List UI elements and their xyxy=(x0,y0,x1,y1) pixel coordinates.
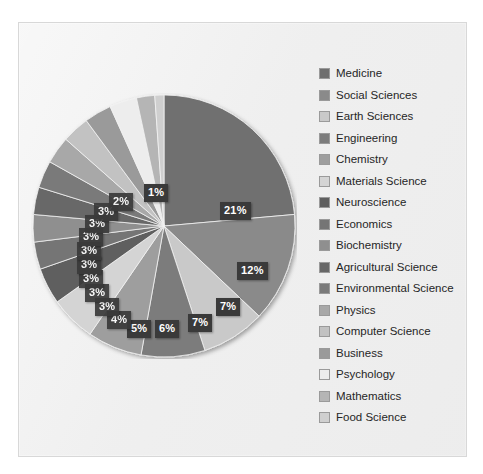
legend-swatch-icon xyxy=(319,391,330,402)
legend-label: Chemistry xyxy=(336,154,388,166)
plot-area: 21% 12% 7% 7% 6% 5% 4% 3% 3% 3% 3% 3% 3%… xyxy=(19,23,309,456)
legend-item-social-sciences[interactable]: Social Sciences xyxy=(319,85,469,107)
legend-label: Materials Science xyxy=(336,176,427,188)
legend-swatch-icon xyxy=(319,348,330,359)
legend-item-mathematics[interactable]: Mathematics xyxy=(319,386,469,408)
legend-item-engineering[interactable]: Engineering xyxy=(319,128,469,150)
data-label-engineering: 7% xyxy=(188,314,212,332)
legend-item-agricultural-science[interactable]: Agricultural Science xyxy=(319,257,469,279)
data-label-chemistry: 6% xyxy=(155,320,179,338)
legend-swatch-icon xyxy=(319,283,330,294)
legend-swatch-icon xyxy=(319,197,330,208)
legend-item-economics[interactable]: Economics xyxy=(319,214,469,236)
legend-swatch-icon xyxy=(319,305,330,316)
legend-item-chemistry[interactable]: Chemistry xyxy=(319,149,469,171)
legend-item-environmental-science[interactable]: Environmental Science xyxy=(319,278,469,300)
data-label-food-science: 1% xyxy=(144,184,168,202)
legend-item-food-science[interactable]: Food Science xyxy=(319,407,469,429)
legend-swatch-icon xyxy=(319,68,330,79)
data-label-mathematics: 2% xyxy=(109,193,133,211)
legend-label: Biochemistry xyxy=(336,240,402,252)
legend-swatch-icon xyxy=(319,262,330,273)
legend-item-materials-science[interactable]: Materials Science xyxy=(319,171,469,193)
legend-swatch-icon xyxy=(319,326,330,337)
legend-swatch-icon xyxy=(319,240,330,251)
legend-label: Neuroscience xyxy=(336,197,406,209)
legend-label: Social Sciences xyxy=(336,90,417,102)
legend-item-computer-science[interactable]: Computer Science xyxy=(319,321,469,343)
legend-swatch-icon xyxy=(319,154,330,165)
data-label-medicine: 21% xyxy=(220,202,251,220)
data-label-social-sciences: 12% xyxy=(237,262,268,280)
legend-label: Agricultural Science xyxy=(336,262,438,274)
legend-item-physics[interactable]: Physics xyxy=(319,300,469,322)
legend: Medicine Social Sciences Earth Sciences … xyxy=(319,63,469,429)
legend-label: Physics xyxy=(336,305,376,317)
legend-swatch-icon xyxy=(319,176,330,187)
legend-label: Medicine xyxy=(336,68,382,80)
legend-item-psychology[interactable]: Psychology xyxy=(319,364,469,386)
legend-swatch-icon xyxy=(319,219,330,230)
legend-item-business[interactable]: Business xyxy=(319,343,469,365)
legend-swatch-icon xyxy=(319,369,330,380)
legend-item-neuroscience[interactable]: Neuroscience xyxy=(319,192,469,214)
legend-swatch-icon xyxy=(319,133,330,144)
legend-label: Earth Sciences xyxy=(336,111,413,123)
pie-chart-screenshot: 21% 12% 7% 7% 6% 5% 4% 3% 3% 3% 3% 3% 3%… xyxy=(0,0,483,474)
legend-label: Psychology xyxy=(336,369,395,381)
data-label-earth-sciences: 7% xyxy=(216,298,240,316)
legend-item-medicine[interactable]: Medicine xyxy=(319,63,469,85)
legend-label: Engineering xyxy=(336,133,397,145)
legend-swatch-icon xyxy=(319,412,330,423)
legend-label: Computer Science xyxy=(336,326,431,338)
legend-label: Mathematics xyxy=(336,391,401,403)
chart-frame: 21% 12% 7% 7% 6% 5% 4% 3% 3% 3% 3% 3% 3%… xyxy=(18,22,467,457)
legend-item-biochemistry[interactable]: Biochemistry xyxy=(319,235,469,257)
legend-label: Environmental Science xyxy=(336,283,454,295)
legend-item-earth-sciences[interactable]: Earth Sciences xyxy=(319,106,469,128)
legend-swatch-icon xyxy=(319,111,330,122)
legend-label: Business xyxy=(336,348,383,360)
legend-label: Economics xyxy=(336,219,392,231)
legend-swatch-icon xyxy=(319,90,330,101)
legend-label: Food Science xyxy=(336,412,406,424)
